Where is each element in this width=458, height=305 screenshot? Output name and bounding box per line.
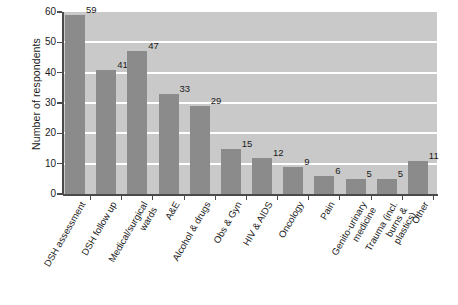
y-axis-tick-labels: 6050403020100 [14,0,56,200]
y-axis-tick-label: 30 [20,97,56,108]
x-axis-category-label-text: Oncology [277,200,306,240]
x-axis-category-label-text: Pain [319,200,338,222]
y-axis-tick-mark [57,133,62,135]
bar-value-label: 33 [180,83,191,94]
x-axis-category-label-text: A&E [163,200,182,222]
y-axis-tick-label: 40 [20,67,56,78]
bar-value-label: 47 [148,40,159,51]
bar-value-label: 12 [273,147,284,158]
bar-value-label: 9 [304,156,309,167]
bar-value-label: 41 [117,59,128,70]
y-axis-tick-label: 10 [20,158,56,169]
x-axis-category-label-text: Obs & Gyn [212,200,244,245]
y-axis-tick-label: 0 [20,188,56,199]
bar[interactable] [346,179,366,194]
bar[interactable] [190,106,210,194]
y-axis-tick-mark [57,42,62,44]
x-axis-category-labels: DSH assessmentDSH follow upMedical/surgi… [0,200,458,305]
x-axis-category-label-text: HIV & AIDS [241,200,275,248]
x-axis-category-label-text: DSH assessment [42,200,88,269]
bar-value-label: 5 [367,168,372,179]
y-axis-tick-label: 20 [20,127,56,138]
y-axis-tick-label: 50 [20,36,56,47]
bar[interactable] [65,15,85,194]
y-axis-tick-mark [57,11,62,13]
bar-value-label: 59 [86,4,97,15]
y-axis-tick-mark [57,102,62,104]
bar-chart: Number of respondents 6050403020100 5941… [0,0,458,305]
y-axis-tick-label: 60 [20,6,56,17]
bar-value-label: 29 [211,95,222,106]
y-axis-tick-mark [57,163,62,165]
y-axis-tick-mark [57,193,62,195]
bar-value-label: 6 [335,165,340,176]
y-axis-tick-mark [57,72,62,74]
y-axis-line [62,12,64,195]
